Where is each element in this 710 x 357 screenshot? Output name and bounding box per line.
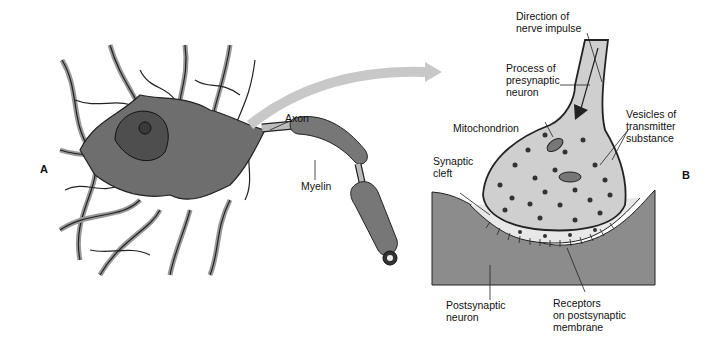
- myelin-segment-2: [351, 182, 398, 256]
- label-postsynaptic-neuron: Postsynaptic neuron: [446, 299, 506, 323]
- label-presynaptic-process: Process of presynaptic neuron: [506, 62, 560, 98]
- label-axon: Axon: [285, 112, 309, 124]
- label-synaptic-cleft: Synaptic cleft: [433, 155, 473, 179]
- cell-body: [80, 95, 265, 199]
- panel-label-b: B: [682, 169, 690, 181]
- label-receptors: Receptors on postsynaptic membrane: [553, 297, 626, 333]
- label-direction-of-nerve-impulse: Direction of nerve impulse: [516, 10, 581, 34]
- label-myelin: Myelin: [301, 180, 331, 192]
- panel-label-a: A: [40, 163, 48, 175]
- transition-arrow: [250, 72, 425, 125]
- mitochondrion-2: [559, 172, 581, 182]
- label-mitochondrion: Mitochondrion: [453, 122, 519, 134]
- label-vesicles: Vesicles of transmitter substance: [626, 108, 676, 144]
